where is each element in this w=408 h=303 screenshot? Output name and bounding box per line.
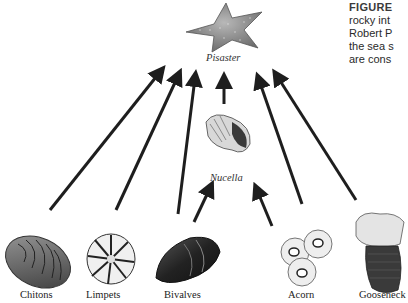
arrow-bivalves-to-nucella (194, 188, 210, 222)
starfish-icon (186, 3, 262, 52)
arrow-limpets-to-pisaster (116, 76, 178, 210)
caption-line: are cons (349, 53, 394, 66)
food-web-arrows (50, 72, 356, 226)
bivalves-label: Bivalves (164, 289, 201, 300)
caption-line: the sea s (349, 40, 394, 53)
limpet-icon (87, 234, 135, 284)
whelk-shell-icon (206, 115, 250, 152)
food-web-graphics (0, 0, 408, 303)
acorn-barnacle-icon (281, 230, 332, 286)
nucella-label: Nucella (210, 172, 243, 183)
caption-line: Robert P (349, 27, 394, 40)
acorn-label: Acorn (288, 289, 314, 300)
arrow-acorn-to-nucella (257, 190, 272, 226)
arrow-bivalves-to-pisaster (178, 78, 195, 214)
food-web-diagram: Pisaster Nucella Chitons Limpets Bivalve… (0, 0, 408, 303)
arrow-chitons-to-pisaster (50, 72, 160, 210)
pisaster-label: Pisaster (206, 52, 240, 63)
chitons-label: Chitons (20, 289, 53, 300)
gooseneck-barnacle-icon (356, 213, 404, 293)
arrow-gooseneck-to-pisaster (277, 76, 356, 200)
figure-caption: FIGURE rocky int Robert P the sea s are … (349, 1, 394, 66)
gooseneck-label: Gooseneck (359, 289, 406, 300)
chiton-icon (0, 226, 79, 298)
arrow-acorn-to-pisaster (259, 80, 302, 204)
limpets-label: Limpets (86, 289, 120, 300)
caption-line: rocky int (349, 14, 394, 27)
mussel-icon (156, 237, 220, 282)
caption-heading: FIGURE (349, 1, 394, 14)
